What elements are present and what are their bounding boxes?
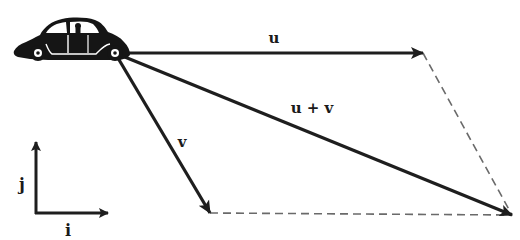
label-u-plus-v: u + v — [291, 99, 335, 117]
unit-axes: j i — [17, 142, 108, 240]
diagram-canvas: u v u + v j i — [0, 0, 520, 240]
label-u: u — [269, 29, 280, 47]
dashed-edge-u-to-sum — [423, 53, 512, 215]
label-v: v — [177, 133, 188, 151]
vector-v — [115, 53, 210, 213]
vector-diagram: u v u + v j i — [0, 0, 520, 240]
vector-u-plus-v — [115, 53, 512, 215]
car-icon — [14, 18, 130, 61]
dashed-edge-v-to-sum — [210, 213, 512, 215]
label-i: i — [65, 221, 71, 240]
label-j: j — [17, 175, 25, 194]
